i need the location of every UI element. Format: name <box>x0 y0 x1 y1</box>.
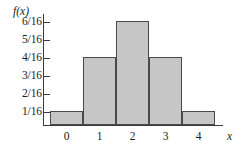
y-tick-label: 2/16 <box>2 88 42 100</box>
x-tick-label: 4 <box>182 131 215 143</box>
bar-4 <box>182 111 215 125</box>
y-axis-line <box>43 14 44 126</box>
y-tick-label: 5/16 <box>2 34 42 46</box>
bar-1 <box>83 57 116 125</box>
y-tick-label: 6/16 <box>2 16 42 28</box>
bar-series <box>50 14 215 125</box>
bar-0 <box>50 111 83 125</box>
x-tick-label: 0 <box>50 131 83 143</box>
x-axis-line <box>43 125 223 126</box>
y-tick-label: 3/16 <box>2 70 42 82</box>
x-tick-label: 1 <box>83 131 116 143</box>
x-tick-label: 3 <box>149 131 182 143</box>
x-tick-label: 2 <box>116 131 149 143</box>
x-axis-title: x <box>227 131 232 143</box>
bar-3 <box>149 57 182 125</box>
y-tick-label: 4/16 <box>2 52 42 64</box>
histogram-figure: f(x) 6/165/164/163/162/161/16 01234 x <box>0 0 244 157</box>
bar-2 <box>116 21 149 125</box>
y-tick-label: 1/16 <box>2 106 42 118</box>
